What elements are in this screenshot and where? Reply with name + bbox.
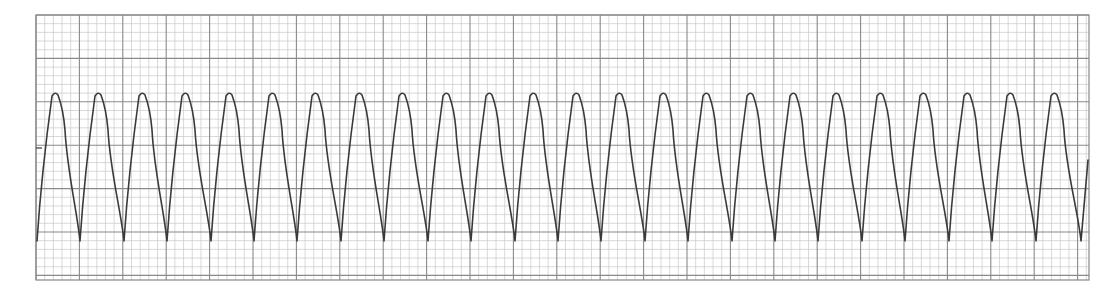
ecg-rhythm-strip bbox=[0, 0, 1117, 290]
ecg-grid-border bbox=[36, 15, 1089, 280]
ecg-grid-minor bbox=[36, 15, 1089, 280]
ecg-grid-major bbox=[36, 15, 1089, 280]
